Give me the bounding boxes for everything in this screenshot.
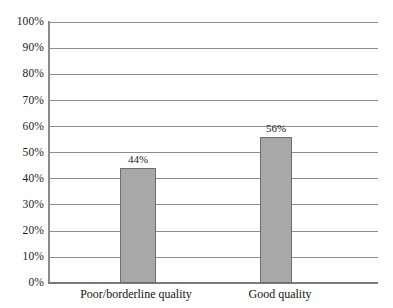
- y-tick-label-10: 10%: [0, 251, 44, 263]
- y-tick-label-90: 90%: [0, 42, 44, 54]
- gridline-20: [48, 231, 378, 232]
- y-tick-label-50: 50%: [0, 147, 44, 159]
- y-tick-label-60: 60%: [0, 121, 44, 133]
- y-tick-label-80: 80%: [0, 68, 44, 80]
- y-tick-label-70: 70%: [0, 95, 44, 107]
- gridline-80: [48, 74, 378, 75]
- bar-chart-figure: 100% 90% 80% 70% 60% 50% 40% 30% 20% 10%…: [0, 0, 393, 308]
- gridline-40: [48, 178, 378, 179]
- x-axis-category-label-good-quality: Good quality: [210, 288, 350, 301]
- y-tick-label-0: 0%: [0, 277, 44, 289]
- bar-poor-borderline-quality: [120, 168, 156, 283]
- bar-good-quality: [260, 137, 292, 283]
- y-tick-label-30: 30%: [0, 199, 44, 211]
- gridline-30: [48, 204, 378, 205]
- gridline-70: [48, 100, 378, 101]
- y-axis-tick-labels: 100% 90% 80% 70% 60% 50% 40% 30% 20% 10%…: [0, 0, 44, 308]
- cropped-title-remnant: [22, 0, 362, 6]
- gridline-50: [48, 152, 378, 153]
- x-axis-category-label-poor-borderline-quality: Poor/borderline quality: [48, 288, 224, 301]
- gridline-60: [48, 126, 378, 127]
- gridline-100: [48, 22, 378, 23]
- gridline-baseline-0: [48, 282, 378, 284]
- y-tick-label-100: 100%: [0, 16, 44, 28]
- bar-value-label-good-quality: 56%: [243, 123, 309, 134]
- y-tick-label-40: 40%: [0, 173, 44, 185]
- bar-value-label-poor-borderline-quality: 44%: [105, 154, 171, 165]
- gridline-10: [48, 257, 378, 258]
- gridline-90: [48, 48, 378, 49]
- y-tick-label-20: 20%: [0, 225, 44, 237]
- plot-area: [48, 22, 378, 283]
